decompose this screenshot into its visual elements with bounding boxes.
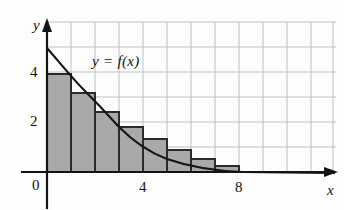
riemann-sum-figure: y x 0 4 8 2 4 y = f(x) [0, 0, 344, 210]
riemann-bar [47, 74, 71, 172]
x-axis-label: x [327, 183, 334, 198]
riemann-bar [71, 93, 95, 172]
y-axis-label: y [33, 18, 40, 33]
y-axis-tick-label-4: 4 [30, 65, 38, 80]
y-axis-tick-label-2: 2 [30, 114, 38, 129]
riemann-bar [119, 127, 143, 172]
x-axis-origin-label: 0 [32, 178, 40, 193]
plot-area [0, 0, 344, 210]
y-axis-arrowhead [42, 18, 52, 32]
x-axis-arrowhead [324, 167, 338, 177]
riemann-bar [143, 139, 167, 172]
curve-annotation-label: y = f(x) [92, 53, 140, 70]
x-axis-tick-label-8: 8 [235, 180, 243, 195]
riemann-bar [95, 112, 119, 172]
x-axis-tick-label-4: 4 [139, 180, 147, 195]
